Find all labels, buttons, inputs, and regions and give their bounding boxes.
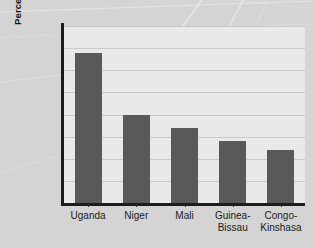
scan-streak-artifact — [0, 0, 314, 13]
y-axis-title-line1: Percentages of population — [12, 0, 23, 25]
x-tick-label: Mali — [160, 210, 208, 222]
y-axis-title-text: Percentages of population ages 0–14 — [12, 0, 36, 25]
y-axis-line — [61, 23, 64, 206]
bar — [123, 115, 150, 204]
x-tick-mark — [136, 203, 137, 207]
gridline — [64, 26, 305, 27]
plot-wrapper: 46.046.547.047.548.048.549.049.550.0 Uga… — [64, 26, 305, 203]
x-tick-label: Guinea- Bissau — [209, 210, 257, 233]
bar — [171, 128, 198, 203]
scan-streak-artifact — [0, 155, 59, 175]
x-tick-mark — [185, 203, 186, 207]
scan-streak-artifact — [210, 0, 314, 12]
x-tick-mark — [281, 203, 282, 207]
x-tick-label: Uganda — [64, 210, 112, 222]
x-tick-label: Niger — [112, 210, 160, 222]
bar — [267, 150, 294, 203]
x-tick-label: Congo- Kinshasa — [257, 210, 305, 233]
bar — [219, 141, 246, 203]
plot-area — [64, 26, 305, 203]
x-axis-line — [61, 203, 305, 206]
x-tick-mark — [88, 203, 89, 207]
bar-chart-figure: Percentages of population ages 0–14 46.0… — [0, 0, 314, 248]
bar — [75, 53, 102, 203]
x-tick-mark — [233, 203, 234, 207]
gridline — [64, 48, 305, 49]
y-axis-title: Percentages of population ages 0–14 — [6, 0, 42, 54]
